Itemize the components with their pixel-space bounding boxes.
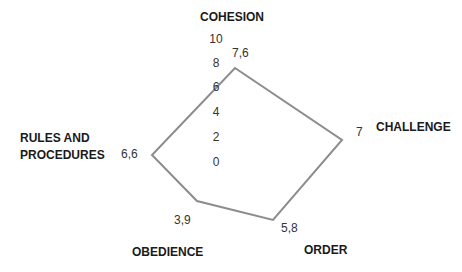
value-label-obedience: 3,9 — [174, 213, 191, 227]
value-label-rules: 6,6 — [121, 147, 138, 161]
tick-8: 8 — [213, 56, 220, 70]
series-polygon — [152, 68, 342, 220]
value-label-order: 5,8 — [281, 221, 298, 235]
axis-label-rules-line1: RULES AND — [20, 131, 90, 145]
tick-2: 2 — [213, 130, 220, 144]
axis-label-challenge: CHALLENGE — [376, 120, 451, 134]
axis-label-rules-line2: PROCEDURES — [20, 148, 105, 162]
axis-label-obedience: OBEDIENCE — [132, 245, 203, 259]
value-label-cohesion: 7,6 — [232, 46, 249, 60]
tick-0: 0 — [213, 155, 220, 169]
value-label-challenge: 7 — [356, 125, 363, 139]
tick-4: 4 — [213, 105, 220, 119]
axis-label-cohesion: COHESION — [200, 10, 264, 24]
axis-label-order: ORDER — [304, 243, 347, 257]
tick-6: 6 — [213, 80, 220, 94]
tick-10: 10 — [209, 32, 222, 46]
